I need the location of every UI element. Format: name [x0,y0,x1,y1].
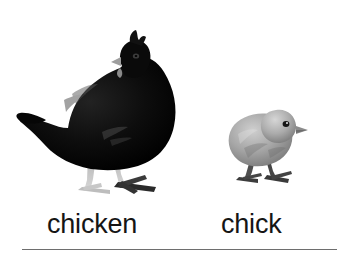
flashcard-page: chicken chick [0,0,337,258]
bottom-divider [22,249,337,250]
gray-chick-photo [224,100,308,190]
chick-eye [283,121,290,127]
label-chick: chick [221,211,282,238]
hen-pupil [135,55,138,57]
label-chicken: chicken [47,211,137,238]
hen-body [16,30,175,170]
black-hen-photo [14,24,186,194]
chick-body [229,110,296,167]
chick-eye-glint [286,122,288,124]
